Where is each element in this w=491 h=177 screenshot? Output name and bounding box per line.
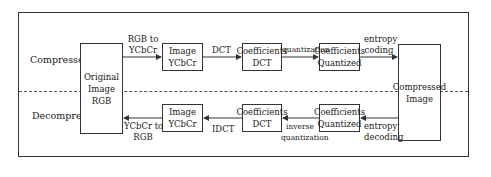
flow-arrows: [0, 0, 491, 177]
edge-label-ycbcr-to-rgb: YCbCr to RGB: [124, 121, 162, 143]
edge-label-inverse-quantization: inverse quantization: [281, 121, 319, 143]
edge-label-rgb-to-ycbcr: RGB to YCbCr: [127, 34, 159, 56]
edge-label-line: coding: [364, 45, 394, 56]
edge-label-entropy-coding: entropy coding: [364, 34, 394, 56]
edge-label-line: decoding: [364, 132, 396, 143]
edge-label-line: entropy: [364, 34, 394, 45]
edge-label-quantization: quantization: [282, 44, 330, 55]
edge-label-line: RGB: [124, 132, 162, 143]
edge-label-line: quantization: [281, 132, 319, 143]
edge-label-line: entropy: [364, 121, 396, 132]
edge-label-dct: DCT: [212, 45, 231, 56]
edge-label-line: YCbCr: [127, 45, 159, 56]
edge-label-idct: IDCT: [212, 124, 234, 135]
edge-label-line: YCbCr to: [124, 121, 162, 132]
edge-label-entropy-decoding: entropy decoding: [364, 121, 396, 143]
edge-label-line: RGB to: [127, 34, 159, 45]
edge-label-line: inverse: [281, 121, 319, 132]
